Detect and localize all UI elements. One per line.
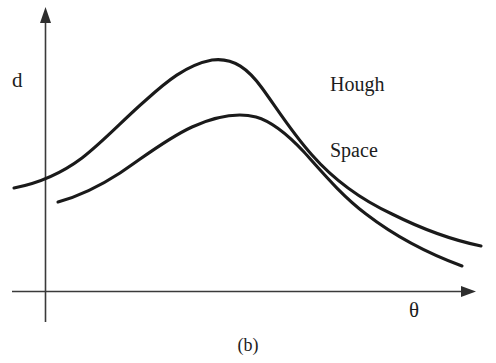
x-axis-label: θ — [409, 300, 419, 321]
hough-space-annotation: Hough Space — [330, 31, 384, 203]
x-axis-arrowhead — [461, 286, 476, 297]
hough-curve-1 — [14, 60, 481, 246]
y-axis-label: d — [12, 70, 23, 91]
hough-curve-2 — [58, 115, 462, 266]
hough-space-figure: d θ Hough Space (b) — [0, 0, 496, 363]
y-axis-arrowhead — [40, 7, 51, 23]
y-axis — [40, 7, 51, 322]
annotation-line-2: Space — [330, 137, 384, 163]
x-axis — [12, 286, 476, 297]
figure-caption: (b) — [0, 336, 496, 354]
annotation-line-1: Hough — [330, 71, 384, 97]
hough-space-plot — [0, 0, 496, 363]
